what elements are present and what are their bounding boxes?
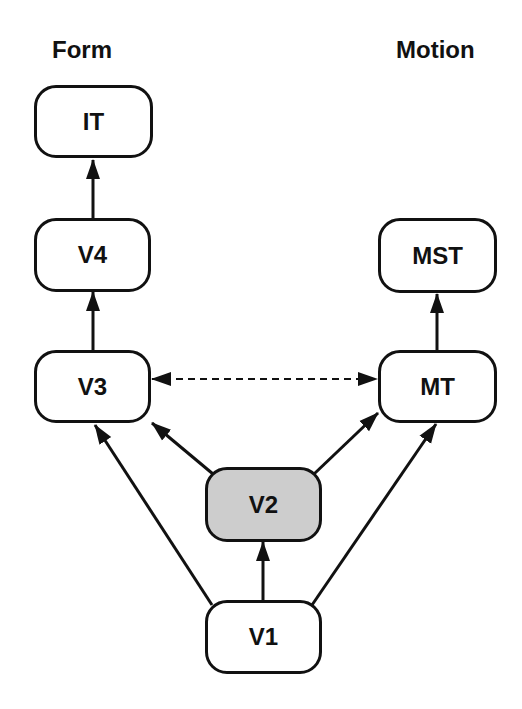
node-v4: V4 — [34, 218, 151, 292]
node-v2-label: V2 — [249, 491, 278, 519]
node-v3: V3 — [34, 350, 151, 423]
node-v2: V2 — [205, 467, 322, 542]
edge-v1-to-v3 — [95, 425, 212, 605]
form-column-label: Form — [52, 36, 112, 64]
node-v4-label: V4 — [78, 241, 107, 269]
node-mst: MST — [378, 218, 497, 293]
motion-column-label: Motion — [396, 36, 475, 64]
node-v1: V1 — [205, 600, 322, 674]
node-mst-label: MST — [412, 242, 463, 270]
edge-v2-to-v3 — [152, 423, 213, 474]
node-v1-label: V1 — [249, 623, 278, 651]
edge-v2-to-mt — [314, 413, 378, 474]
node-it-label: IT — [83, 108, 104, 136]
node-v3-label: V3 — [78, 373, 107, 401]
node-it: IT — [34, 85, 153, 158]
node-mt: MT — [378, 350, 497, 423]
node-mt-label: MT — [420, 373, 455, 401]
edge-v1-to-mt — [312, 424, 436, 605]
